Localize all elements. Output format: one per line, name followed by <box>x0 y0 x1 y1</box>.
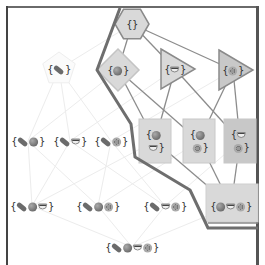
cookie-icon <box>237 202 246 211</box>
hotdog-icon <box>149 201 161 212</box>
brace: { <box>53 136 59 147</box>
brace: { <box>47 64 53 75</box>
node-label-empty: {} <box>126 19 138 30</box>
brace: { <box>231 129 237 140</box>
faint-edge <box>28 141 98 206</box>
tomato-icon <box>152 131 161 140</box>
brace: } <box>81 136 87 147</box>
brace: } <box>243 142 249 153</box>
cookie-icon <box>113 137 122 146</box>
faint-edge <box>98 141 111 206</box>
hotdog-icon <box>17 136 29 147</box>
faint-edge <box>28 141 32 206</box>
node-label-ht: {} <box>11 136 45 147</box>
cup-icon <box>171 67 180 73</box>
cup-icon <box>149 145 158 151</box>
cookie-icon <box>172 202 181 211</box>
tomato-icon <box>114 66 123 75</box>
brace: } <box>65 64 71 75</box>
node-label-ck: { } <box>231 128 250 154</box>
brace: { <box>10 201 16 212</box>
cup-icon <box>134 245 143 251</box>
cup-icon <box>227 204 236 210</box>
node-label-tk: { } <box>190 128 209 154</box>
node-label-htck: {} <box>105 242 159 253</box>
node-label-htk: {} <box>76 201 120 212</box>
brace: } <box>180 64 186 75</box>
brace: } <box>114 201 120 212</box>
node-label-k: {} <box>222 65 244 76</box>
cup-icon <box>39 204 48 210</box>
brace: { <box>11 136 17 147</box>
brace: { <box>105 242 111 253</box>
hotdog-icon <box>16 201 28 212</box>
brace: } <box>202 142 208 153</box>
brace: } <box>39 136 45 147</box>
brace: } <box>123 65 129 76</box>
diagram-canvas <box>0 0 265 265</box>
brace: { <box>143 201 149 212</box>
brace: } <box>132 19 138 30</box>
node-label-tc: { } <box>146 128 165 154</box>
cookie-icon <box>193 144 202 153</box>
tomato-icon <box>124 243 133 252</box>
brace: } <box>238 65 244 76</box>
cookie-icon <box>144 243 153 252</box>
brace: { <box>146 129 152 140</box>
node-label-tck: {} <box>210 201 252 212</box>
node-label-hc: {} <box>53 136 87 147</box>
brace: } <box>181 201 187 212</box>
tomato-icon <box>30 137 39 146</box>
tomato-icon <box>29 202 38 211</box>
brace: } <box>246 201 252 212</box>
node-label-t: {} <box>107 65 129 76</box>
tomato-icon <box>95 202 104 211</box>
brace: } <box>153 242 159 253</box>
brace: { <box>94 136 100 147</box>
tomato-icon <box>217 202 226 211</box>
hotdog-icon <box>100 136 112 147</box>
hotdog-icon <box>111 242 123 253</box>
cookie-icon <box>234 144 243 153</box>
cookie-icon <box>105 202 114 211</box>
brace: } <box>48 201 54 212</box>
hotdog-icon <box>82 201 94 212</box>
brace: { <box>190 129 196 140</box>
brace: } <box>158 142 164 153</box>
brace: } <box>122 136 128 147</box>
hotdog-icon <box>53 64 65 75</box>
tomato-icon <box>196 131 205 140</box>
brace: { <box>222 65 228 76</box>
hotdog-icon <box>59 136 71 147</box>
cookie-icon <box>229 66 238 75</box>
node-label-h: {} <box>47 64 71 75</box>
node-label-c: {} <box>164 64 186 75</box>
node-label-htc: {} <box>10 201 54 212</box>
cup-icon <box>72 139 81 145</box>
brace: { <box>107 65 113 76</box>
cup-icon <box>162 204 171 210</box>
lattice-diagram: {}{}{}{}{}{}{}{}{ }{ }{ }{}{}{}{}{} <box>0 0 265 265</box>
cup-icon <box>237 132 246 138</box>
brace: { <box>76 201 82 212</box>
node-label-hck: {} <box>143 201 187 212</box>
brace: { <box>210 201 216 212</box>
brace: { <box>164 64 170 75</box>
node-shapes <box>97 9 258 222</box>
node-label-hk: {} <box>94 136 128 147</box>
